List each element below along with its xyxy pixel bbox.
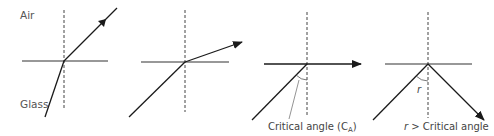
refracted-ray <box>185 42 242 62</box>
refraction-diagram: Air Glass Critical angle (CA) r r > Crit… <box>0 0 494 136</box>
incident-ray <box>252 64 307 120</box>
glass-label: Glass <box>20 98 48 110</box>
angle-arc <box>416 76 428 81</box>
panel-2-refraction <box>129 10 242 117</box>
reflected-ray <box>428 64 484 120</box>
panel-1-refraction: Air Glass <box>20 8 117 117</box>
angle-arc <box>296 75 307 80</box>
critical-angle-label: Critical angle (CA) <box>268 121 357 134</box>
r-angle-label: r <box>417 84 422 95</box>
r-greater-critical-label: r > Critical angle <box>404 121 489 132</box>
refracted-ray <box>64 8 117 61</box>
leader-line <box>289 80 299 119</box>
panel-3-critical-angle: Critical angle (CA) <box>252 12 361 134</box>
panel-4-total-internal-reflection: r r > Critical angle <box>373 12 489 132</box>
incident-ray <box>129 62 185 117</box>
air-label: Air <box>20 9 35 21</box>
